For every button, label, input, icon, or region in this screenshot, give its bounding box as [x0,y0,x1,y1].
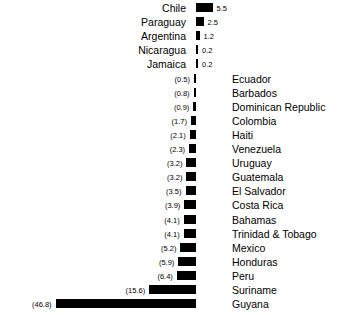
category-label: Bahamas [232,213,276,227]
category-label: Ecuador [232,72,271,86]
bar [194,74,196,83]
value-label: (2.3) [170,143,185,156]
bar [196,59,198,68]
value-label: (5.2) [161,242,176,255]
category-label: Paraguay [141,15,186,29]
chart-row: Chile5.5 [0,1,339,15]
value-label: (15.6) [126,284,146,297]
chart-row: Dominican Republic(0.9) [0,100,339,114]
bar [180,243,196,252]
chart-row: Trinidad & Tobago(4.1) [0,227,339,241]
category-label: Guatemala [232,170,283,184]
category-label: Jamaica [147,57,186,71]
value-label: 5.5 [217,2,227,15]
chart-row: El Salvador(3.5) [0,184,339,198]
value-label: (5.9) [159,256,174,269]
chart-row: Honduras(5.9) [0,255,339,269]
chart-row: Argentina1.2 [0,29,339,43]
bar [186,172,196,181]
value-label: (3.9) [165,199,180,212]
chart-row: Bahamas(4.1) [0,213,339,227]
category-label: Venezuela [232,142,281,156]
category-label: Uruguay [232,156,272,170]
chart-row: Mexico(5.2) [0,241,339,255]
category-label: Honduras [232,255,278,269]
bar [196,31,200,40]
bar [190,130,196,139]
category-label: Dominican Republic [232,100,325,114]
chart-row: Costa Rica(3.9) [0,198,339,212]
category-label: Mexico [232,241,265,255]
value-label: (4.1) [164,228,179,241]
category-label: El Salvador [232,184,286,198]
value-label: 0.2 [202,58,212,71]
chart-row: Nicaragua0.2 [0,43,339,57]
chart-row: Peru(6.4) [0,269,339,283]
bar [178,257,196,266]
category-label: Colombia [232,114,276,128]
value-label: (0.8) [174,87,189,100]
bar [193,102,196,111]
bar [56,299,196,308]
chart-row: Ecuador(0.5) [0,72,339,86]
category-label: Barbados [232,86,277,100]
category-label: Costa Rica [232,198,283,212]
chart-row: Colombia(1.7) [0,114,339,128]
bar [177,271,196,280]
category-label: Chile [162,1,186,15]
chart-row: Barbados(0.8) [0,86,339,100]
chart-row: Haiti(2.1) [0,128,339,142]
bar [189,144,196,153]
bar [149,285,196,294]
bar [194,88,196,97]
bar [186,158,196,167]
category-label: Argentina [141,29,186,43]
horizontal-bar-chart: Chile5.5Paraguay2.5Argentina1.2Nicaragua… [0,0,339,315]
chart-row: Jamaica0.2 [0,57,339,71]
bar [196,45,198,54]
bar [186,186,197,195]
value-label: (1.7) [171,115,186,128]
category-label: Haiti [232,128,253,142]
chart-row: Venezuela(2.3) [0,142,339,156]
value-label: (0.5) [175,73,190,86]
category-label: Suriname [232,283,277,297]
value-label: (4.1) [164,214,179,227]
category-label: Guyana [232,297,269,311]
bar [191,116,196,125]
value-label: (3.2) [167,171,182,184]
chart-row: Guatemala(3.2) [0,170,339,184]
value-label: 0.2 [202,44,212,57]
category-label: Peru [232,269,254,283]
value-label: (2.1) [170,129,185,142]
bar [184,229,196,238]
chart-row: Paraguay2.5 [0,15,339,29]
value-label: 1.2 [204,30,214,43]
chart-row: Suriname(15.6) [0,283,339,297]
value-label: (3.2) [167,157,182,170]
bar [196,17,204,26]
category-label: Trinidad & Tobago [232,227,317,241]
bar [196,3,213,12]
chart-row: Guyana(46.8) [0,297,339,311]
bar [184,200,196,209]
category-label: Nicaragua [138,43,186,57]
value-label: (0.9) [174,101,189,114]
value-label: (6.4) [157,270,172,283]
value-label: 2.5 [208,16,218,29]
value-label: (46.8) [32,298,52,311]
chart-row: Uruguay(3.2) [0,156,339,170]
value-label: (3.5) [166,185,181,198]
bar [184,215,196,224]
